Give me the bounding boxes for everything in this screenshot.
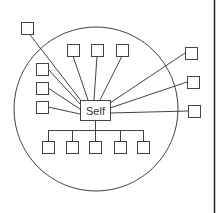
self-network-diagram: Self xyxy=(0,0,221,213)
inside-node-box xyxy=(37,102,49,114)
inside-node-box xyxy=(37,83,49,95)
bottom-node-box xyxy=(138,142,150,154)
self-node: Self xyxy=(81,101,111,121)
inside-node-box xyxy=(68,45,80,57)
self-label: Self xyxy=(86,105,106,117)
edge-inside-left xyxy=(48,107,80,114)
outside-node-box xyxy=(22,23,34,35)
outside-node-box xyxy=(186,48,198,60)
bottom-node-box xyxy=(43,142,55,154)
bottom-node-box xyxy=(67,142,79,154)
inside-node-box xyxy=(92,45,104,57)
connection-lines xyxy=(29,34,188,141)
edge-outside-right xyxy=(110,111,188,113)
bottom-node-box xyxy=(90,142,102,154)
edge-inside-top xyxy=(100,56,122,100)
outside-node-box xyxy=(188,77,200,89)
outside-node-box xyxy=(189,106,201,118)
edge-inside-top xyxy=(94,56,97,100)
inside-node-box xyxy=(37,64,49,76)
inside-node-box xyxy=(117,45,129,57)
bottom-node-box xyxy=(115,142,127,154)
